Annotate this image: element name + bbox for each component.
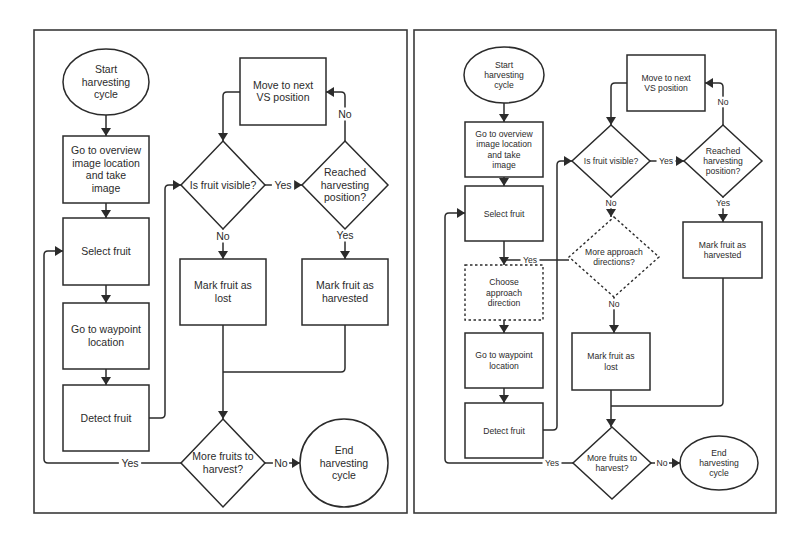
arrowhead-icon <box>218 133 228 141</box>
node-label: harvested <box>322 292 368 304</box>
arrowhead-icon <box>101 128 111 136</box>
node-label: image <box>492 160 516 170</box>
node-visible: Is fruit visible? <box>572 125 650 197</box>
arrowhead-icon <box>499 395 509 403</box>
node-label: harvest? <box>596 463 629 473</box>
node-detect: Detect fruit <box>465 403 543 458</box>
edge-label-yes: Yes <box>716 198 730 208</box>
node-reached: Reachedharvestingposition? <box>684 125 762 197</box>
node-label: Start <box>495 60 514 70</box>
node-label: Select fruit <box>81 245 131 257</box>
node-label: image location <box>476 139 532 149</box>
node-label: location <box>88 336 124 348</box>
node-label: More approach <box>585 247 643 257</box>
node-waypoint: Go to waypointlocation <box>465 333 543 388</box>
node-harvested: Mark fruit asharvested <box>683 222 762 278</box>
arrowhead-icon <box>218 251 228 259</box>
node-label: lost <box>215 292 231 304</box>
node-lost: Mark fruit aslost <box>572 333 650 390</box>
connector-harvested-to-more <box>223 325 345 372</box>
arrowhead-icon <box>606 209 616 217</box>
node-label: cycle <box>494 80 514 90</box>
node-label: Mark fruit as <box>194 279 252 291</box>
edge-label-no: No <box>274 457 288 469</box>
node-visible: Is fruit visible? <box>181 141 265 229</box>
arrowhead-icon <box>457 208 465 218</box>
edge-label-yes: Yes <box>523 255 537 265</box>
arrowhead-icon <box>218 411 228 419</box>
node-end: Endharvestingcycle <box>680 436 758 490</box>
node-choose: Chooseapproachdirection <box>465 265 543 320</box>
arrowhead-icon <box>676 156 684 166</box>
node-overview: Go to overviewimage locationand takeimag… <box>465 122 543 177</box>
node-label: harvesting <box>484 70 524 80</box>
edge-label-no: No <box>338 108 352 120</box>
node-label: Go to waypoint <box>475 350 533 360</box>
node-label: Move to next <box>253 79 313 91</box>
arrowhead-icon <box>564 156 572 166</box>
connector-detect-to-visible <box>543 161 572 430</box>
node-harvested: Mark fruit asharvested <box>302 259 388 325</box>
edge-label-yes: Yes <box>274 179 291 191</box>
node-label: More fruits to <box>587 453 637 463</box>
node-label: Mark fruit as <box>316 279 374 291</box>
arrowhead-icon <box>173 180 181 190</box>
node-label: harvest? <box>203 463 243 475</box>
node-label: Start <box>95 63 117 75</box>
node-reached: Reachedharvestingposition? <box>302 141 388 229</box>
node-label: cycle <box>332 469 356 481</box>
node-overview: Go to overviewimage locationand takeimag… <box>63 136 149 203</box>
node-label: Go to overview <box>71 144 141 156</box>
edge-label-yes: Yes <box>336 229 353 241</box>
node-label: and take <box>488 150 521 160</box>
node-label: Go to waypoint <box>71 323 141 335</box>
arrowhead-icon <box>672 458 680 468</box>
connector-detect-to-visible <box>149 185 181 418</box>
arrowhead-icon <box>499 114 509 122</box>
node-label: Detect fruit <box>483 426 525 436</box>
arrowhead-icon <box>499 257 509 265</box>
node-label: Is fruit visible? <box>190 179 257 191</box>
arrowhead-icon <box>294 180 302 190</box>
arrowhead-icon <box>101 210 111 218</box>
edge-label-no: No <box>718 97 729 107</box>
node-label: Detect fruit <box>81 412 132 424</box>
node-start: Startharvestingcycle <box>63 49 149 115</box>
arrowhead-icon <box>499 325 509 333</box>
edge-label-yes: Yes <box>545 458 559 468</box>
node-waypoint: Go to waypointlocation <box>63 303 149 369</box>
arrowhead-icon <box>609 325 619 333</box>
arrowhead-icon <box>499 178 509 186</box>
arrowhead-icon <box>326 87 334 97</box>
node-approach: More approachdirections? <box>569 217 659 297</box>
arrowhead-icon <box>101 295 111 303</box>
arrowhead-icon <box>606 419 616 427</box>
node-label: image <box>92 182 121 194</box>
node-label: harvesting <box>321 179 370 191</box>
node-label: position? <box>706 166 741 176</box>
node-label: Mark fruit as <box>587 351 634 361</box>
node-label: position? <box>324 191 366 203</box>
node-label: VS position <box>644 83 688 93</box>
node-label: directions? <box>593 257 635 267</box>
node-label: Mark fruit as <box>699 240 746 250</box>
node-label: harvesting <box>703 156 743 166</box>
edge-label-no: No <box>606 198 617 208</box>
node-label: Select fruit <box>484 209 525 219</box>
node-label: Go to overview <box>475 129 533 139</box>
node-select: Select fruit <box>63 218 149 285</box>
flowchart-figure: YesNoNoYesNoYesStartharvestingcycleGo to… <box>0 0 808 540</box>
edge-label-no: No <box>609 299 620 309</box>
node-start: Startharvestingcycle <box>464 47 544 103</box>
node-label: approach <box>486 288 522 298</box>
node-more: More fruits toharvest? <box>573 427 651 499</box>
node-label: VS position <box>256 91 309 103</box>
arrowhead-icon <box>705 78 713 88</box>
node-label: End <box>711 448 727 458</box>
node-label: and take <box>86 169 126 181</box>
node-label: harvesting <box>320 457 369 469</box>
arrowhead-icon <box>606 117 616 125</box>
node-label: direction <box>488 298 521 308</box>
node-label: lost <box>604 362 618 372</box>
node-label: location <box>489 361 519 371</box>
